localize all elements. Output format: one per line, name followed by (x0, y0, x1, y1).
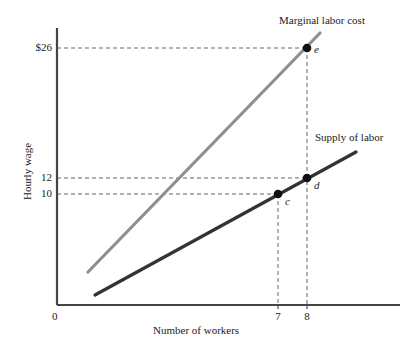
x-axis-title: Number of workers (153, 325, 239, 336)
curve-label-marginal-labor-cost: Marginal labor cost (279, 15, 365, 26)
origin-label: 0 (52, 311, 58, 322)
y-axis-title: Hourly wage (22, 143, 33, 200)
x-tick-label-8: 8 (295, 311, 319, 322)
data-point-d (303, 174, 312, 183)
chart-plot-area (0, 0, 411, 347)
curve-label-supply-of-labor: Supply of labor (315, 132, 383, 143)
data-point-e (303, 44, 312, 53)
x-tick-label-7: 7 (266, 311, 290, 322)
point-label-c: c (285, 196, 290, 207)
economics-chart-figure: $26 12 10 7 8 0 Hourly wage Number of wo… (0, 0, 411, 347)
data-point-c (274, 190, 283, 199)
point-label-d: d (314, 180, 320, 191)
y-tick-label-26: $26 (12, 42, 52, 53)
point-label-e: e (314, 44, 319, 55)
